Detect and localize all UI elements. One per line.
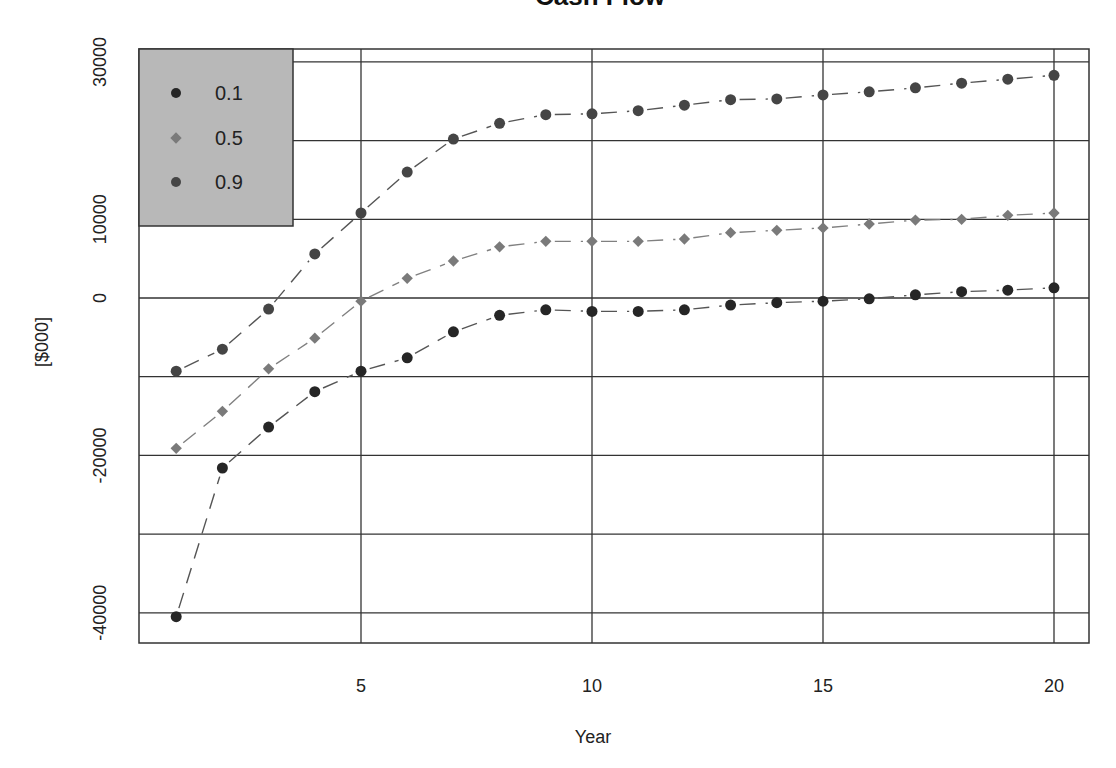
series-segment xyxy=(1017,288,1045,289)
data-point-circle-icon xyxy=(1002,285,1013,296)
series-segment xyxy=(647,310,675,311)
data-point-diamond-icon xyxy=(540,236,551,247)
series-segment xyxy=(693,101,721,104)
data-point-diamond-icon xyxy=(402,273,413,284)
data-point-diamond-icon xyxy=(355,295,366,306)
x-tick-label: 15 xyxy=(813,676,833,696)
series-segment xyxy=(693,306,721,309)
series-segment xyxy=(276,397,308,421)
data-point-diamond-icon xyxy=(448,255,459,266)
data-point-circle-icon xyxy=(171,366,182,377)
series-segment xyxy=(229,433,262,462)
series-segment xyxy=(183,417,215,443)
data-point-circle-icon xyxy=(679,100,690,111)
data-point-circle-icon xyxy=(587,306,598,317)
series-segment xyxy=(368,178,401,207)
data-point-circle-icon xyxy=(356,208,367,219)
data-point-circle-icon xyxy=(956,286,967,297)
data-point-circle-icon xyxy=(910,82,921,93)
series-segment xyxy=(179,477,220,609)
series-segment xyxy=(878,221,906,223)
series-segment xyxy=(693,234,721,238)
series-segment xyxy=(924,292,952,294)
series-segment xyxy=(832,225,860,227)
series-segment xyxy=(416,264,445,275)
data-point-diamond-icon xyxy=(679,233,690,244)
data-point-circle-icon xyxy=(818,296,829,307)
data-point-diamond-icon xyxy=(910,214,921,225)
data-point-circle-icon xyxy=(725,300,736,311)
data-point-diamond-icon xyxy=(864,218,875,229)
data-point-circle-icon xyxy=(633,306,644,317)
legend-marker-circle-icon xyxy=(171,88,181,98)
x-axis-label: Year xyxy=(575,727,611,747)
data-point-circle-icon xyxy=(1049,70,1060,81)
data-point-circle-icon xyxy=(171,611,182,622)
series-segment xyxy=(322,219,355,248)
series-segment xyxy=(971,216,999,218)
legend-marker-circle-icon xyxy=(171,177,181,187)
series-lines xyxy=(179,76,1045,608)
data-point-circle-icon xyxy=(494,310,505,321)
data-point-diamond-icon xyxy=(586,236,597,247)
data-point-diamond-icon xyxy=(725,227,736,238)
series-segment xyxy=(832,299,860,300)
series-segment xyxy=(1017,76,1045,78)
series-segment xyxy=(740,231,768,232)
y-tick-label: 30000 xyxy=(90,37,110,87)
data-point-circle-icon xyxy=(540,304,551,315)
data-point-circle-icon xyxy=(309,386,320,397)
series-segment xyxy=(509,242,537,245)
legend-label: 0.9 xyxy=(215,171,243,193)
data-point-circle-icon xyxy=(956,78,967,89)
data-point-circle-icon xyxy=(263,422,274,433)
data-point-circle-icon xyxy=(217,462,228,473)
legend-label: 0.1 xyxy=(215,82,243,104)
data-point-circle-icon xyxy=(864,293,875,304)
data-point-circle-icon xyxy=(402,167,413,178)
y-axis-label: [$000] xyxy=(32,317,52,367)
series-segment xyxy=(370,360,399,368)
x-tick-label: 5 xyxy=(356,676,366,696)
series-segment xyxy=(832,92,860,94)
series-segment xyxy=(786,228,814,229)
series-segment xyxy=(322,307,354,333)
series-segment xyxy=(740,303,768,304)
series-segment xyxy=(508,116,537,121)
data-point-circle-icon xyxy=(725,94,736,105)
series-segment xyxy=(971,290,999,291)
series-segment xyxy=(229,375,262,405)
data-point-circle-icon xyxy=(448,134,459,145)
legend-label: 0.5 xyxy=(215,127,243,149)
series-segment xyxy=(601,111,629,113)
data-point-circle-icon xyxy=(587,108,598,119)
series-segment xyxy=(369,282,399,297)
data-point-circle-icon xyxy=(448,326,459,337)
data-point-circle-icon xyxy=(356,366,367,377)
data-point-circle-icon xyxy=(309,248,320,259)
series-segment xyxy=(229,315,262,343)
data-point-circle-icon xyxy=(402,352,413,363)
data-point-diamond-icon xyxy=(494,241,505,252)
data-point-circle-icon xyxy=(263,304,274,315)
series-segment xyxy=(647,239,675,240)
data-point-circle-icon xyxy=(1049,282,1060,293)
series-segment xyxy=(647,106,675,109)
data-point-diamond-icon xyxy=(1048,207,1059,218)
y-axis-ticks: 30000100000-20000-40000 xyxy=(90,37,110,641)
data-point-diamond-icon xyxy=(956,214,967,225)
series-segment xyxy=(415,144,447,167)
data-point-circle-icon xyxy=(910,289,921,300)
series-segment xyxy=(878,89,906,91)
data-point-circle-icon xyxy=(217,344,228,355)
series-segment xyxy=(274,261,309,302)
series-segment xyxy=(786,96,814,98)
x-axis-ticks: 5101520 xyxy=(356,676,1064,696)
legend: 0.1 0.5 0.9 xyxy=(139,49,293,226)
series-segment xyxy=(509,311,537,314)
data-point-circle-icon xyxy=(864,86,875,97)
data-point-circle-icon xyxy=(540,109,551,120)
series-segment xyxy=(1017,213,1045,214)
data-point-diamond-icon xyxy=(633,236,644,247)
series-segment xyxy=(184,353,214,367)
